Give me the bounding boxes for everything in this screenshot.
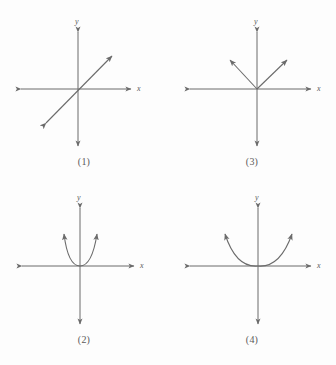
- figure-sheet: x y (1) x y (3): [0, 0, 336, 365]
- coordinate-plane-4: x y: [168, 182, 336, 334]
- graph-curve-4-left: [225, 234, 258, 266]
- panel-caption-3: (3): [168, 156, 336, 167]
- y-axis-label-4: y: [254, 193, 259, 202]
- x-axis-label-1: x: [136, 84, 141, 93]
- x-axis-label-4: x: [316, 261, 321, 270]
- x-axis-label-2: x: [139, 261, 144, 270]
- y-axis-label-2: y: [76, 193, 81, 202]
- graph-curve-4-right: [258, 234, 292, 266]
- graph-curve-2-left: [64, 234, 80, 266]
- graph-curve-2-right: [80, 234, 97, 266]
- panel-caption-4: (4): [168, 334, 336, 345]
- y-axis-label-3: y: [253, 17, 258, 26]
- panel-caption-2: (2): [0, 334, 168, 345]
- y-axis-label-1: y: [74, 17, 79, 26]
- graph-curve-3-right: [257, 60, 287, 89]
- graph-panel-2: x y (2): [0, 182, 168, 364]
- coordinate-plane-2: x y: [0, 182, 168, 334]
- coordinate-plane-3: x y: [168, 0, 336, 156]
- graph-panel-4: x y (4): [168, 182, 336, 364]
- graph-curve-3-left: [230, 60, 257, 89]
- graph-panel-3: x y (3): [168, 0, 336, 182]
- graph-panel-1: x y (1): [0, 0, 168, 182]
- panel-caption-1: (1): [0, 156, 168, 167]
- coordinate-plane-1: x y: [0, 0, 168, 156]
- x-axis-label-3: x: [316, 84, 321, 93]
